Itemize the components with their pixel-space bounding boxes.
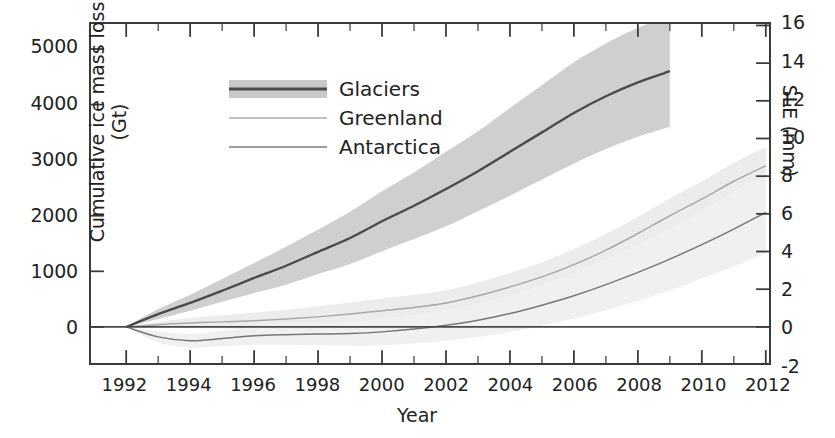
x-axis-tick-label: 1994 [154,374,224,395]
x-axis-tick-label: 2000 [347,374,417,395]
y-axis-left-tick-label: 2000 [0,204,78,226]
x-axis-tick-label: 1996 [218,374,288,395]
y-axis-right-title: SLE (mm) [779,31,801,231]
x-axis-tick-label: 1992 [89,374,159,395]
x-axis-tick-label: 1998 [282,374,352,395]
x-axis-tick-label: 2012 [733,374,803,395]
legend-swatch-antarctica [229,134,327,160]
legend-label-glaciers: Glaciers [339,77,420,101]
x-axis-tick-label: 2004 [475,374,545,395]
y-axis-right-tick-label: 2 [781,278,821,300]
legend-swatch-glaciers [229,76,327,102]
plot-area: Glaciers Greenland Antarctica [89,22,771,365]
legend-label-antarctica: Antarctica [339,135,441,159]
figure: Glaciers Greenland Antarctica 0100020003… [0,0,835,438]
y-axis-right-tick-label: 0 [781,316,821,338]
y-axis-left-tick-label: 3000 [0,148,78,170]
uncertainty-bands [126,24,766,348]
legend-swatch-greenland [229,105,327,131]
x-axis-tick-label: 2006 [540,374,610,395]
x-axis-tick-label: 2008 [604,374,674,395]
x-axis-tick-label: 2002 [411,374,481,395]
y-axis-right-tick-label: 4 [781,240,821,262]
chart-svg [91,24,769,363]
y-axis-left-tick-label: 1000 [0,260,78,282]
x-axis-title: Year [287,404,547,426]
legend-label-greenland: Greenland [339,106,443,130]
y-axis-left-tick-label: 0 [0,316,78,338]
y-axis-left-tick-label: 5000 [0,35,78,57]
y-axis-left-tick-label: 4000 [0,92,78,114]
y-axis-left-title: Cumulative ice mass loss (Gt) [86,0,130,252]
x-axis-tick-label: 2010 [668,374,738,395]
